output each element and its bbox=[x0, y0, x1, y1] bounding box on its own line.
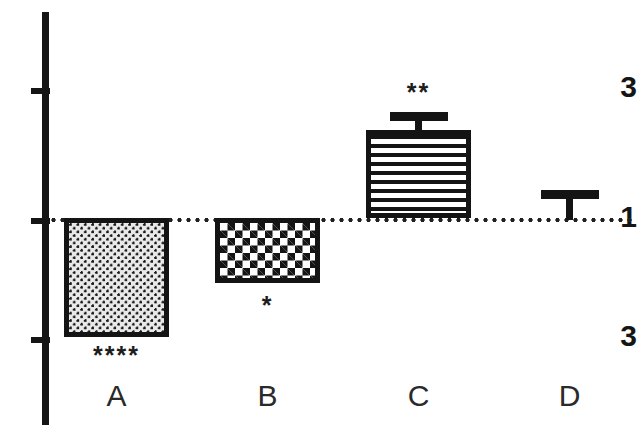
bar-b bbox=[215, 218, 320, 283]
x-axis-label-a: A bbox=[64, 381, 169, 411]
significance-marker-b: * bbox=[215, 293, 320, 318]
x-axis-label-d: D bbox=[517, 381, 622, 411]
x-axis-label-c: C bbox=[366, 381, 471, 411]
significance-marker-c: ** bbox=[366, 80, 471, 105]
error-bar-cap-d bbox=[541, 190, 599, 199]
bar-a bbox=[64, 218, 169, 337]
x-axis-label-b: B bbox=[215, 381, 320, 411]
error-bar-cap-c bbox=[390, 112, 448, 121]
significance-marker-a: **** bbox=[64, 343, 169, 368]
bar-c bbox=[366, 130, 471, 218]
plot-area: **** * ** bbox=[0, 0, 637, 436]
bar-chart-figure: 3 1 3 **** * ** A B C D bbox=[0, 0, 637, 436]
